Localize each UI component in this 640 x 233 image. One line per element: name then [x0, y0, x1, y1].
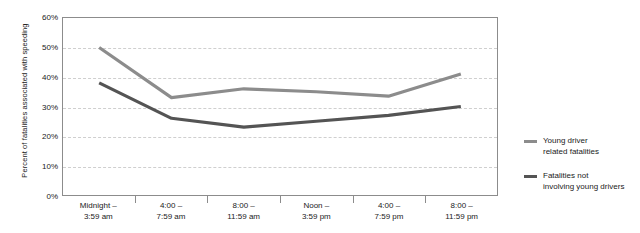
y-axis-tick-label: 40% [14, 72, 58, 81]
x-axis-tick-label-line: 11:59 pm [416, 212, 508, 223]
x-axis-tick-label: 8:00 –11:59 pm [416, 201, 508, 222]
y-axis-tick-labels: 60%50%40%30%20%10%0% [10, 17, 58, 196]
legend-color-swatch [524, 175, 537, 178]
chart-legend: Young driverrelated fatalitiesFatalities… [524, 136, 640, 206]
y-axis-tick-label: 0% [14, 192, 58, 201]
y-axis-tick-label: 10% [14, 162, 58, 171]
legend-color-swatch [524, 140, 537, 143]
legend-item[interactable]: Fatalities notinvolving young drivers [524, 171, 640, 192]
y-axis-tick-label: 60% [14, 13, 58, 22]
y-axis-tick-label: 30% [14, 102, 58, 111]
legend-label-line: Fatalities not [543, 171, 624, 182]
y-axis-tick-label: 50% [14, 42, 58, 51]
legend-label-line: Young driver [543, 136, 599, 147]
legend-item[interactable]: Young driverrelated fatalities [524, 136, 640, 157]
legend-label: Fatalities notinvolving young drivers [543, 171, 624, 192]
y-axis-tick-label: 20% [14, 132, 58, 141]
series-line [99, 48, 461, 98]
legend-label-line: involving young drivers [543, 182, 624, 193]
series-lines [63, 18, 497, 195]
legend-label-line: related fatalities [543, 147, 599, 158]
legend-label: Young driverrelated fatalities [543, 136, 599, 157]
speeding-fatalities-line-chart: Percent of fatalities associated with sp… [0, 0, 640, 233]
x-axis-tick-label-line: 8:00 – [416, 201, 508, 212]
plot-area [62, 17, 498, 196]
